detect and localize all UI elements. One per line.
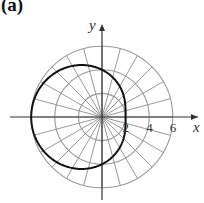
x-tick-label: 4 — [146, 120, 153, 135]
grid-ray — [34, 117, 102, 135]
grid-ray — [102, 99, 170, 117]
grid-ray — [84, 49, 102, 117]
polar-plot: 246 x y — [0, 0, 204, 203]
axes — [10, 24, 198, 200]
x-tick-labels: 246 — [123, 120, 177, 135]
y-axis-label: y — [87, 17, 96, 33]
grid-ray — [84, 117, 102, 185]
x-tick-label: 2 — [123, 120, 130, 135]
grid-ray — [34, 99, 102, 117]
x-tick-label: 6 — [170, 120, 177, 135]
grid-ray — [102, 117, 170, 135]
x-axis-label: x — [192, 119, 200, 135]
